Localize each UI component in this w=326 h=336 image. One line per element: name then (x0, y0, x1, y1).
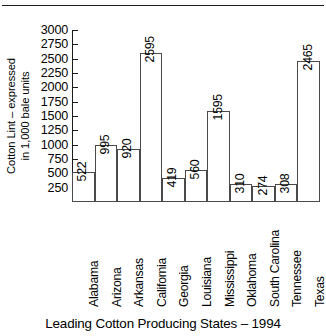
x-axis-label: Mississippi (224, 251, 236, 307)
x-axis-label: Arizona (111, 267, 123, 307)
y-axis-tick-label: 250 (48, 181, 68, 195)
y-axis-tick (72, 59, 78, 60)
y-axis-tick-label: 2250 (41, 66, 68, 80)
y-axis-tick (72, 87, 78, 88)
bar[interactable] (117, 149, 140, 202)
bar[interactable] (185, 170, 208, 202)
x-axis-label: Alabama (88, 261, 100, 307)
y-axis-tick (72, 102, 78, 103)
y-axis-tick (72, 116, 78, 117)
y-axis-tick-label: 2000 (41, 80, 68, 94)
chart-caption: Leading Cotton Producing States – 1994 (0, 316, 326, 331)
x-axis-label: Louisiana (201, 257, 213, 307)
bar[interactable] (95, 145, 118, 202)
bar[interactable] (207, 111, 230, 202)
x-axis-label: Oklahoma (246, 253, 258, 307)
bar[interactable] (297, 61, 320, 202)
y-axis-tick (72, 159, 78, 160)
y-axis-tick-label: 750 (48, 152, 68, 166)
y-axis-tick-label: 1000 (41, 138, 68, 152)
y-axis-tick (72, 73, 78, 74)
y-axis-tick (72, 30, 78, 31)
x-axis-label: South Carolina (269, 230, 281, 307)
bar[interactable] (140, 53, 163, 202)
x-axis-label: Tennessee (291, 250, 303, 307)
x-axis-label: California (156, 258, 168, 307)
y-axis-tick (72, 145, 78, 146)
bar[interactable] (72, 172, 95, 202)
y-axis-tick (72, 130, 78, 131)
y-axis-tick-labels: 2505007501000125015001750200022502500275… (28, 30, 70, 202)
x-axis-category-labels: AlabamaArizonaArkansasCaliforniaGeorgiaL… (72, 205, 324, 309)
y-axis-tick-label: 500 (48, 166, 68, 180)
y-axis-title-line1: Cotton Lint – expressed (4, 58, 18, 174)
y-axis-tick-label: 1750 (41, 95, 68, 109)
y-axis-tick-label: 1500 (41, 109, 68, 123)
x-axis-label: Texas (314, 276, 326, 307)
y-axis-tick-label: 3000 (41, 23, 68, 37)
bar[interactable] (275, 184, 298, 202)
x-axis-label: Georgia (178, 265, 190, 307)
bar[interactable] (162, 178, 185, 202)
y-axis-tick-label: 2500 (41, 52, 68, 66)
y-axis-tick-label: 2750 (41, 37, 68, 51)
header-divider-rule (2, 5, 324, 6)
y-axis-tick-label: 1250 (41, 123, 68, 137)
bar[interactable] (230, 184, 253, 202)
bar[interactable] (252, 186, 275, 202)
x-axis-label: Arkansas (133, 258, 145, 307)
plot-area (72, 30, 320, 202)
y-axis-tick (72, 44, 78, 45)
